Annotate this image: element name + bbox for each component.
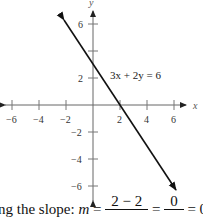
slope-symbol: m bbox=[78, 201, 89, 217]
x-tick-label: −4 bbox=[33, 114, 44, 125]
equation-label: 3x + 2y = 6 bbox=[110, 69, 161, 81]
x-tick-label: −2 bbox=[60, 114, 71, 125]
x-tick-label: 2 bbox=[117, 114, 122, 125]
result: = 0 bbox=[184, 201, 203, 217]
y-tick-label: −6 bbox=[71, 181, 82, 192]
x-tick-label: 6 bbox=[171, 114, 176, 125]
y-axis-label: y bbox=[88, 0, 94, 8]
y-tick-label: 2 bbox=[78, 73, 83, 84]
y-tick-label: 6 bbox=[78, 19, 83, 30]
fraction-1: 2 − 2 bbox=[105, 193, 148, 210]
x-tick-label: −6 bbox=[6, 114, 17, 125]
equals-sign: = bbox=[89, 201, 105, 217]
x-tick-label: 4 bbox=[144, 114, 149, 125]
fraction-2-numerator: 0 bbox=[164, 193, 184, 210]
y-tick-label: −4 bbox=[71, 154, 82, 165]
y-tick-label: −2 bbox=[71, 127, 82, 138]
caption-prefix: ng the slope: bbox=[0, 201, 78, 217]
graph: y x −6 −4 −2 2 4 6 6 2 −2 −4 −6 3x + 2y … bbox=[0, 0, 203, 220]
fraction-2: 0 bbox=[164, 193, 184, 210]
x-axis-label: x bbox=[192, 100, 198, 111]
fraction-1-numerator: 2 − 2 bbox=[105, 193, 148, 210]
equals-sign: = bbox=[148, 201, 164, 217]
slope-caption: ng the slope: m = 2 − 2 = 0 = 0 bbox=[0, 201, 203, 219]
